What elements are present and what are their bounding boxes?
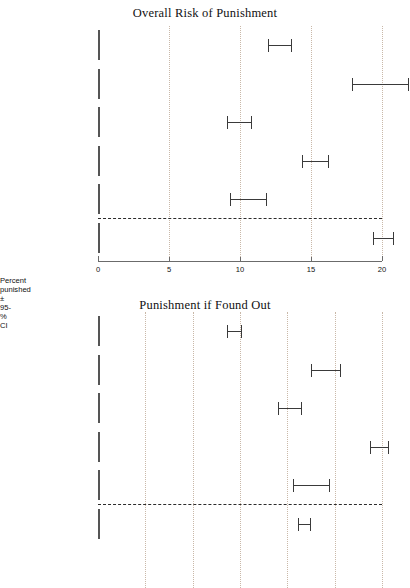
x-axis-tick [382,256,383,261]
chart-title: Overall Risk of Punishment [0,6,410,21]
bar [98,30,280,60]
error-bar-line [227,122,251,123]
error-bar-cap-high [266,193,267,206]
total-separator [98,218,382,219]
total-separator [98,504,382,505]
error-bar-cap-high [310,518,311,531]
error-bar-cap-low [352,78,353,91]
error-bar-cap-high [301,402,302,415]
error-bar-cap-high [340,364,341,377]
error-bar-cap-high [241,325,242,338]
error-bar-line [278,408,301,409]
error-bar-line [298,524,310,525]
error-bar-cap-low [227,116,228,129]
bar-rect [98,107,100,137]
bar-rect [98,223,100,253]
bar [98,223,383,253]
x-axis-tick-label: 20 [378,265,386,274]
x-axis-tick [240,257,241,261]
error-bar-cap-low [302,155,303,168]
error-bar-line [352,84,407,85]
chart-title: Punishment if Found Out [0,298,410,313]
bar [98,69,375,99]
bar-rect [98,316,100,346]
bar-rect [98,393,100,423]
error-bar-cap-low [227,325,228,338]
chart-panel-overall-risk: Overall Risk of Punishment Minor Violent… [0,0,410,294]
error-bar-line [268,45,291,46]
x-axis-tick-label: 0 [96,265,100,274]
error-bar-cap-high [251,116,252,129]
error-bar-cap-low [298,518,299,531]
x-axis-tick-label: 5 [167,265,171,274]
error-bar-cap-low [268,39,269,52]
chart-panel-punishment-if-found-out: Punishment if Found Out Minor Violent Of… [0,294,410,588]
bar-rect [98,509,100,539]
x-axis-line [98,261,382,262]
x-axis-tick [169,257,170,261]
error-bar-cap-high [408,78,409,91]
error-bar-line [293,485,329,486]
bar-rect [98,69,100,99]
bar [98,470,311,500]
bar-rect [98,355,100,385]
error-bar-line [230,199,266,200]
bar [98,146,315,176]
gridline [382,312,384,588]
error-bar-cap-high [388,441,389,454]
bar-rect [98,30,100,60]
bar [98,393,290,423]
error-bar-cap-low [293,479,294,492]
error-bar-cap-low [370,441,371,454]
x-axis-tick [98,256,99,261]
bar [98,184,247,214]
x-axis-tick [311,257,312,261]
error-bar-line [302,161,328,162]
bar-rect [98,470,100,500]
bar-rect [98,184,100,214]
bar [98,432,380,462]
bar [98,355,325,385]
bar [98,107,237,137]
bar [98,509,303,539]
error-bar-cap-high [329,479,330,492]
error-bar-line [227,331,241,332]
error-bar-cap-low [311,364,312,377]
error-bar-cap-high [328,155,329,168]
error-bar-cap-low [278,402,279,415]
error-bar-cap-low [373,232,374,245]
bar [98,316,235,346]
error-bar-line [373,238,393,239]
error-bar-line [370,447,388,448]
bar-rect [98,432,100,462]
x-axis-tick-label: 15 [307,265,315,274]
error-bar-cap-low [230,193,231,206]
bar-rect [98,146,100,176]
error-bar-line [311,370,340,371]
error-bar-cap-high [291,39,292,52]
error-bar-cap-high [393,232,394,245]
x-axis-tick-label: 10 [236,265,244,274]
